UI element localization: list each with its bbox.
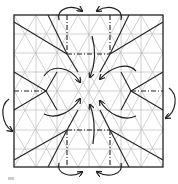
arrow-center-bottom [90, 105, 94, 144]
arrow-top-left [59, 8, 82, 20]
arrow-left [3, 99, 12, 131]
arrow-upper-left [44, 68, 80, 82]
corner-mark [8, 177, 14, 180]
arrow-center-top [90, 36, 94, 77]
arrow-lower-left [44, 99, 80, 116]
crease-pattern-diagram [0, 0, 178, 184]
arrow-top-right [97, 8, 121, 20]
arrow-bottom-left [59, 163, 82, 175]
arrow-bottom-right [97, 163, 121, 175]
arrow-right [166, 88, 175, 118]
